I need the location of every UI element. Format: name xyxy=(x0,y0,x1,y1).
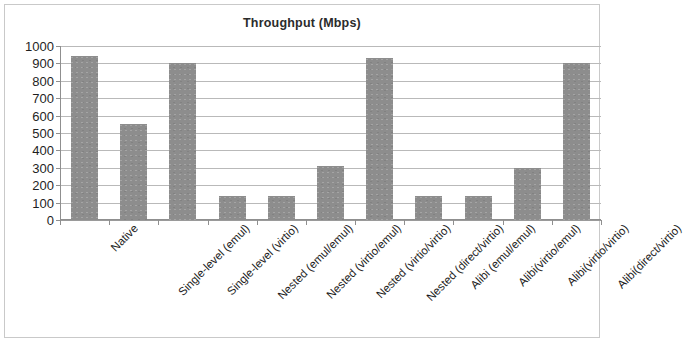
bars-layer xyxy=(60,46,601,220)
y-tick-label-1000: 1000 xyxy=(25,39,54,54)
plot-area: 01002003004005006007008009001000 xyxy=(60,42,601,220)
bar[interactable] xyxy=(169,63,196,220)
y-tick-label-100: 100 xyxy=(32,195,54,210)
bar[interactable] xyxy=(514,168,541,220)
bar[interactable] xyxy=(71,56,98,220)
bar[interactable] xyxy=(219,196,246,220)
chart-frame: Throughput (Mbps) 0100200300400500600700… xyxy=(4,4,600,338)
bar[interactable] xyxy=(120,124,147,220)
bar[interactable] xyxy=(366,58,393,220)
bar[interactable] xyxy=(317,166,344,220)
bar[interactable] xyxy=(563,63,590,220)
y-tick-label-500: 500 xyxy=(32,126,54,141)
bar[interactable] xyxy=(415,196,442,220)
y-tick-label-0: 0 xyxy=(47,213,54,228)
y-tick-label-600: 600 xyxy=(32,108,54,123)
gridline-0 xyxy=(60,220,601,221)
y-tick-label-300: 300 xyxy=(32,160,54,175)
x-axis-label: Native xyxy=(108,222,140,254)
x-axis-labels: NativeSingle-level (emul)Single-level (v… xyxy=(60,222,601,340)
y-tick-label-700: 700 xyxy=(32,91,54,106)
x-tick xyxy=(601,220,602,225)
y-tick-label-900: 900 xyxy=(32,56,54,71)
plot-inner: 01002003004005006007008009001000 xyxy=(60,46,601,220)
y-tick-label-800: 800 xyxy=(32,73,54,88)
bar[interactable] xyxy=(465,196,492,220)
bar[interactable] xyxy=(268,196,295,220)
y-tick-label-400: 400 xyxy=(32,143,54,158)
y-tick-label-200: 200 xyxy=(32,178,54,193)
chart-title: Throughput (Mbps) xyxy=(5,16,599,30)
